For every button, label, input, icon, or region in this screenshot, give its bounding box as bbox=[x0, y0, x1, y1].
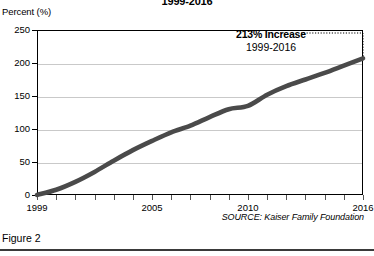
x-tick-mark bbox=[325, 195, 326, 200]
x-tick-mark bbox=[114, 195, 115, 200]
figure-container: 1999-2016 Percent (%) 050100150200250 19… bbox=[0, 0, 374, 256]
x-tick-label: 2005 bbox=[141, 202, 162, 213]
gridline bbox=[38, 64, 362, 65]
x-tick-label: 1999 bbox=[26, 202, 47, 213]
x-tick-mark bbox=[190, 195, 191, 200]
y-tick-label: 0 bbox=[0, 189, 30, 200]
x-tick-mark bbox=[56, 195, 57, 200]
y-tick-mark bbox=[32, 129, 37, 130]
figure-divider bbox=[0, 249, 374, 251]
x-tick-mark bbox=[75, 195, 76, 200]
y-tick-mark bbox=[32, 30, 37, 31]
source-note: SOURCE: Kaiser Family Foundation bbox=[222, 212, 364, 222]
x-tick-mark bbox=[229, 195, 230, 200]
x-tick-mark bbox=[286, 195, 287, 200]
gridline bbox=[38, 97, 362, 98]
y-tick-label: 50 bbox=[0, 156, 30, 167]
x-tick-mark bbox=[267, 195, 268, 200]
y-tick-label: 150 bbox=[0, 90, 30, 101]
y-tick-mark bbox=[32, 162, 37, 163]
x-tick-mark bbox=[344, 195, 345, 200]
x-tick-mark bbox=[248, 195, 249, 200]
increase-annotation: 213% Increase 1999-2016 bbox=[212, 28, 330, 53]
x-tick-mark bbox=[363, 195, 364, 200]
figure-caption: Figure 2 bbox=[2, 232, 41, 244]
y-axis-title: Percent (%) bbox=[2, 6, 51, 17]
y-tick-mark bbox=[32, 96, 37, 97]
x-tick-mark bbox=[210, 195, 211, 200]
y-tick-label: 250 bbox=[0, 24, 30, 35]
x-tick-mark bbox=[171, 195, 172, 200]
plot-area bbox=[37, 30, 363, 195]
x-tick-mark bbox=[95, 195, 96, 200]
annotation-sub-text: 1999-2016 bbox=[212, 41, 330, 54]
chart-title: 1999-2016 bbox=[0, 0, 374, 7]
x-tick-mark bbox=[133, 195, 134, 200]
x-tick-mark bbox=[37, 195, 38, 200]
annotation-main-text: 213% Increase bbox=[212, 28, 330, 41]
y-tick-mark bbox=[32, 63, 37, 64]
gridline bbox=[38, 130, 362, 131]
gridline bbox=[38, 163, 362, 164]
y-tick-label: 100 bbox=[0, 123, 30, 134]
x-tick-mark bbox=[152, 195, 153, 200]
x-tick-mark bbox=[305, 195, 306, 200]
y-tick-label: 200 bbox=[0, 57, 30, 68]
